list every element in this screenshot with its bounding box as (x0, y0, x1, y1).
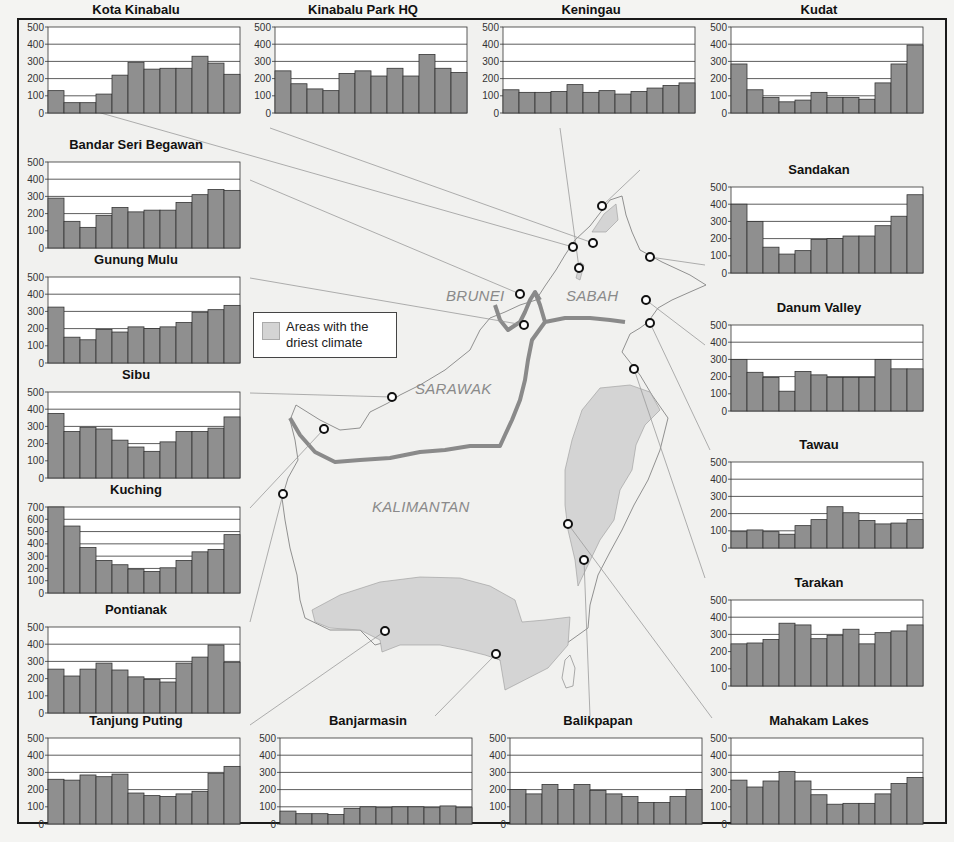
svg-text:400: 400 (710, 474, 727, 485)
svg-text:400: 400 (27, 750, 44, 761)
svg-text:300: 300 (27, 191, 44, 202)
svg-text:200: 200 (27, 673, 44, 684)
svg-text:300: 300 (482, 56, 499, 67)
chart-tanjung-puting: Tanjung Puting0100200300400500 (20, 713, 252, 833)
svg-text:0: 0 (721, 268, 727, 279)
svg-text:500: 500 (710, 22, 727, 33)
svg-text:400: 400 (710, 612, 727, 623)
svg-text:600: 600 (27, 514, 44, 525)
svg-text:300: 300 (259, 767, 276, 778)
svg-text:100: 100 (259, 801, 276, 812)
svg-text:100: 100 (482, 90, 499, 101)
svg-text:500: 500 (482, 22, 499, 33)
svg-text:500: 500 (27, 733, 44, 744)
svg-text:200: 200 (710, 646, 727, 657)
svg-text:300: 300 (710, 491, 727, 502)
svg-text:100: 100 (27, 801, 44, 812)
chart-kudat: Kudat0100200300400500 (703, 2, 935, 122)
region-label-sarawak: SARAWAK (415, 380, 492, 397)
svg-text:300: 300 (27, 306, 44, 317)
svg-text:400: 400 (27, 174, 44, 185)
legend: Areas with the driest climate (253, 312, 397, 358)
svg-text:100: 100 (489, 801, 506, 812)
svg-text:400: 400 (489, 750, 506, 761)
svg-text:400: 400 (27, 639, 44, 650)
svg-text:300: 300 (710, 216, 727, 227)
svg-text:300: 300 (710, 767, 727, 778)
svg-text:400: 400 (254, 39, 271, 50)
chart-keningau: Keningau0100200300400500 (475, 2, 707, 122)
svg-text:300: 300 (27, 56, 44, 67)
svg-text:500: 500 (27, 622, 44, 633)
svg-text:400: 400 (482, 39, 499, 50)
svg-text:200: 200 (27, 73, 44, 84)
region-label-sabah: SABAH (566, 287, 618, 304)
svg-text:300: 300 (710, 354, 727, 365)
svg-text:100: 100 (710, 801, 727, 812)
chart-danum-valley: Danum Valley0100200300400500 (703, 300, 935, 420)
svg-text:100: 100 (27, 90, 44, 101)
svg-text:0: 0 (265, 108, 271, 119)
svg-text:500: 500 (710, 182, 727, 193)
chart-kuching: Kuching0100200300400500600700 (20, 482, 252, 602)
chart-tarakan: Tarakan0100200300400500 (703, 575, 935, 695)
region-label-kalimantan: KALIMANTAN (372, 498, 470, 515)
svg-text:200: 200 (259, 784, 276, 795)
svg-text:400: 400 (259, 750, 276, 761)
svg-text:100: 100 (710, 388, 727, 399)
svg-text:300: 300 (710, 56, 727, 67)
chart-kota-kinabalu: Kota Kinabalu0100200300400500 (20, 2, 252, 122)
svg-text:0: 0 (721, 543, 727, 554)
svg-text:400: 400 (710, 39, 727, 50)
svg-text:0: 0 (721, 108, 727, 119)
svg-text:0: 0 (493, 108, 499, 119)
svg-text:0: 0 (721, 819, 727, 830)
svg-text:400: 400 (27, 39, 44, 50)
svg-text:0: 0 (721, 681, 727, 692)
svg-text:400: 400 (27, 289, 44, 300)
svg-text:500: 500 (489, 733, 506, 744)
svg-text:400: 400 (27, 538, 44, 549)
svg-text:500: 500 (710, 595, 727, 606)
svg-text:200: 200 (27, 563, 44, 574)
svg-text:500: 500 (710, 457, 727, 468)
svg-text:500: 500 (27, 387, 44, 398)
svg-text:200: 200 (710, 73, 727, 84)
chart-tawau: Tawau0100200300400500 (703, 437, 935, 557)
svg-text:100: 100 (27, 340, 44, 351)
svg-text:500: 500 (254, 22, 271, 33)
svg-text:200: 200 (482, 73, 499, 84)
legend-label-line1: Areas with the (286, 319, 368, 335)
svg-text:100: 100 (27, 575, 44, 586)
svg-text:200: 200 (27, 784, 44, 795)
svg-text:100: 100 (254, 90, 271, 101)
svg-text:500: 500 (27, 22, 44, 33)
chart-balikpapan: Balikpapan0100200300400500 (482, 713, 714, 833)
chart-kinabalu-park-hq: Kinabalu Park HQ0100200300400500 (247, 2, 479, 122)
svg-text:200: 200 (27, 208, 44, 219)
svg-text:200: 200 (27, 323, 44, 334)
svg-text:500: 500 (27, 272, 44, 283)
svg-text:0: 0 (38, 108, 44, 119)
svg-text:300: 300 (27, 551, 44, 562)
svg-text:300: 300 (27, 767, 44, 778)
svg-text:100: 100 (27, 690, 44, 701)
svg-text:0: 0 (270, 819, 276, 830)
chart-sandakan: Sandakan0100200300400500 (703, 162, 935, 282)
svg-text:0: 0 (721, 406, 727, 417)
svg-text:300: 300 (710, 629, 727, 640)
legend-label-line2: driest climate (286, 335, 368, 351)
svg-text:300: 300 (254, 56, 271, 67)
svg-text:200: 200 (254, 73, 271, 84)
chart-mahakam-lakes: Mahakam Lakes0100200300400500 (703, 713, 935, 833)
svg-text:100: 100 (710, 663, 727, 674)
chart-pontianak: Pontianak0100200300400500 (20, 602, 252, 722)
svg-text:300: 300 (27, 421, 44, 432)
svg-text:200: 200 (710, 508, 727, 519)
svg-text:300: 300 (27, 656, 44, 667)
svg-text:400: 400 (710, 199, 727, 210)
svg-text:100: 100 (710, 525, 727, 536)
svg-text:400: 400 (710, 337, 727, 348)
svg-text:100: 100 (27, 455, 44, 466)
svg-text:500: 500 (710, 733, 727, 744)
